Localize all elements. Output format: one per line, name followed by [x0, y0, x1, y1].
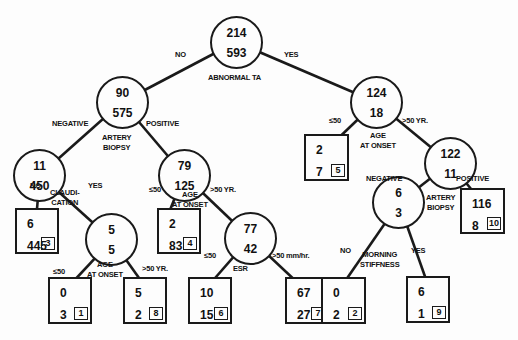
- leaf-value-top: 2: [169, 218, 176, 230]
- node-124-18: 124 18: [350, 76, 403, 129]
- leaf-value-top: 10: [200, 287, 213, 299]
- split-label-claudication: CLAUDI- CATION: [50, 188, 79, 208]
- node-value-bottom: 3: [395, 207, 402, 219]
- leaf-value-top: 5: [135, 287, 142, 299]
- edge-label-positive-right: POSITIVE: [456, 174, 489, 184]
- node-value-top: 79: [178, 160, 191, 172]
- leaf-value-top: 0: [333, 287, 340, 299]
- node-root: 214 593: [210, 16, 263, 69]
- node-value-top: 124: [366, 87, 386, 99]
- label-line: BIOPSY: [102, 143, 131, 153]
- label-line: AT ONSET: [87, 270, 123, 280]
- edge-label-gt50-esr: >50 mm/hr.: [272, 251, 309, 261]
- leaf-1: 0 3 1: [48, 277, 92, 324]
- edge-label-le50-mid: ≤50: [149, 185, 161, 195]
- label-line: CATION: [50, 198, 79, 208]
- label-line: AT ONSET: [360, 141, 396, 151]
- leaf-number: 5: [331, 164, 345, 177]
- edge-label-no-claud: NO: [30, 181, 41, 191]
- split-label-esr: ESR: [233, 264, 248, 274]
- leaf-value-bottom: 2: [135, 309, 142, 321]
- node-value-bottom: 5: [108, 244, 115, 256]
- split-label-morning-stiffness: MORNING STIFFNESS: [360, 250, 399, 270]
- node-value-top: 122: [440, 148, 460, 160]
- leaf-number: 2: [348, 307, 362, 320]
- node-value-top: 5: [108, 224, 115, 236]
- leaf-value-top: 2: [316, 144, 323, 156]
- leaf-number: 9: [432, 306, 446, 319]
- edge-label-le50-esr: ≤50: [204, 251, 216, 261]
- leaf-number: 3: [41, 237, 55, 250]
- split-label-artery-biopsy: ARTERY BIOPSY: [102, 133, 131, 153]
- edge-label-negative-right: NEGATIVE: [366, 174, 402, 184]
- label-line: CLAUDI-: [50, 188, 79, 198]
- leaf-6: 10 15 6: [188, 277, 232, 324]
- leaf-number: 4: [183, 237, 197, 250]
- label-line: STIFFNESS: [360, 260, 399, 270]
- node-value-bottom: 575: [112, 107, 132, 119]
- leaf-2: 0 2 2: [321, 277, 366, 324]
- edge-label-no-morning: NO: [340, 246, 351, 256]
- leaf-value-top: 116: [472, 198, 491, 210]
- edge-label-no-root: NO: [175, 50, 186, 60]
- label-line: MORNING: [360, 250, 399, 260]
- edge-label-positive: POSITIVE: [146, 119, 179, 129]
- node-value-bottom: 11: [444, 168, 457, 180]
- leaf-value-bottom: 3: [60, 309, 67, 321]
- node-value-bottom: 18: [370, 107, 383, 119]
- leaf-9: 6 1 9: [406, 276, 450, 323]
- leaf-value-bottom: 27: [297, 309, 310, 321]
- split-label-age-onset-low: AGE AT ONSET: [87, 260, 123, 280]
- leaf-number: 6: [214, 307, 228, 320]
- leaf-4: 2 83 4: [157, 208, 201, 254]
- leaf-number: 1: [74, 307, 88, 320]
- node-90-575: 90 575: [96, 76, 149, 129]
- leaf-value-bottom: 8: [472, 220, 479, 232]
- leaf-value-top: 6: [418, 286, 425, 298]
- node-value-top: 90: [116, 87, 129, 99]
- edge-label-gt50-low: >50 YR.: [142, 264, 168, 274]
- leaf-value-bottom: 15: [200, 309, 213, 321]
- label-line: BIOPSY: [426, 203, 455, 213]
- edge-label-yes-claud: YES: [88, 181, 102, 191]
- edge-label-le50-low: ≤50: [53, 267, 65, 277]
- leaf-number: 10: [487, 217, 501, 230]
- leaf-value-top: 67: [297, 287, 310, 299]
- node-77-42: 77 42: [224, 212, 277, 265]
- leaf-value-top: 6: [27, 218, 34, 230]
- leaf-8: 5 2 8: [123, 277, 167, 324]
- edge-label-yes-morning: YES: [411, 246, 425, 256]
- leaf-10: 116 8 10: [460, 188, 505, 234]
- leaf-5: 2 7 5: [304, 134, 349, 181]
- node-value-bottom: 42: [244, 243, 257, 255]
- label-line: AT ONSET: [172, 200, 208, 210]
- node-value-bottom: 593: [226, 47, 246, 59]
- edge-label-negative: NEGATIVE: [52, 119, 88, 129]
- leaf-value-bottom: 1: [418, 308, 425, 320]
- node-value-top: 214: [226, 27, 246, 39]
- leaf-value-top: 0: [60, 287, 67, 299]
- node-value-top: 11: [33, 160, 46, 172]
- leaf-value-bottom: 2: [333, 309, 340, 321]
- label-line: ARTERY: [102, 133, 131, 143]
- split-label-abnormal-ta: ABNORMAL TA: [208, 73, 261, 83]
- leaf-value-bottom: 7: [316, 166, 323, 178]
- node-5-5: 5 5: [85, 213, 138, 266]
- leaf-3: 6 445 3: [15, 208, 59, 254]
- node-value-top: 6: [395, 187, 402, 199]
- edge-label-gt50-right: >50 YR.: [402, 116, 428, 126]
- edge-label-gt50-mid: >50 YR.: [210, 185, 236, 195]
- leaf-value-bottom: 83: [169, 240, 182, 252]
- label-line: AGE: [360, 131, 396, 141]
- split-label-age-onset-right: AGE AT ONSET: [360, 131, 396, 151]
- label-line: AGE: [172, 190, 208, 200]
- edge-label-yes-root: YES: [284, 50, 298, 60]
- edge-label-le50-right: ≤50: [329, 116, 341, 126]
- label-line: AGE: [87, 260, 123, 270]
- split-label-age-onset-mid: AGE AT ONSET: [172, 190, 208, 210]
- leaf-number: 8: [149, 307, 163, 320]
- label-line: ARTERY: [426, 193, 455, 203]
- node-value-top: 77: [244, 223, 257, 235]
- split-label-artery-biopsy-right: ARTERY BIOPSY: [426, 193, 455, 213]
